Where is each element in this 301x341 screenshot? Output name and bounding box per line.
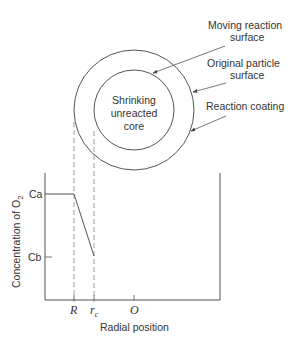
callouts: Moving reaction surface Original particl… xyxy=(153,19,284,131)
original-surface-label-line2: surface xyxy=(230,69,265,81)
x-tick-R: R xyxy=(69,303,78,317)
x-tick-rc: rc xyxy=(90,303,99,319)
plot-frame xyxy=(45,173,220,300)
y-tick-cb: Cb xyxy=(28,251,42,263)
x-tick-O: O xyxy=(130,303,139,317)
original-surface-arrow xyxy=(193,83,226,92)
plot: Ca Cb R rc O Radial position Concentrati… xyxy=(10,173,220,333)
core-label-line2: unreacted xyxy=(111,107,158,119)
y-axis-label: Concentration of O2 xyxy=(10,195,25,288)
original-surface-label-line1: Original particle xyxy=(207,57,280,69)
particle: Shrinking unreacted core xyxy=(74,50,194,170)
coating-arrow xyxy=(191,116,226,131)
x-axis-label: Radial position xyxy=(100,321,169,333)
core-label-line1: Shrinking xyxy=(112,94,156,106)
core-label-line3: core xyxy=(124,120,145,132)
moving-surface-label-line2: surface xyxy=(230,31,265,43)
moving-surface-label-line1: Moving reaction xyxy=(208,19,282,31)
concentration-profile xyxy=(45,194,94,256)
coating-label: Reaction coating xyxy=(206,100,284,112)
y-tick-ca: Ca xyxy=(29,188,43,200)
shrinking-core-diagram: Shrinking unreacted core Moving reaction… xyxy=(0,0,301,341)
